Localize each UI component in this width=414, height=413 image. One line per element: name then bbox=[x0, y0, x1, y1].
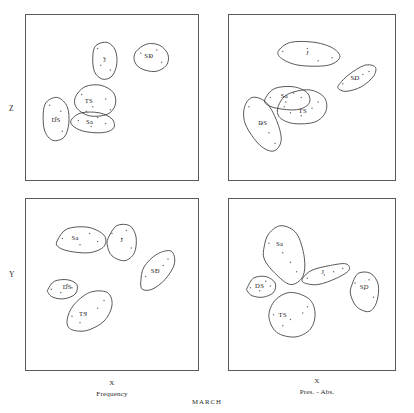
data-point bbox=[290, 112, 292, 114]
cluster-layer-panel-y-frequency: SaJSDDSTS bbox=[26, 199, 198, 370]
data-point bbox=[333, 271, 335, 273]
cluster-ts[interactable]: TS bbox=[269, 292, 315, 337]
data-point bbox=[105, 98, 107, 100]
cluster-sa[interactable]: Sa bbox=[263, 226, 305, 285]
data-point bbox=[49, 104, 51, 106]
data-point bbox=[300, 115, 302, 117]
cluster-ts[interactable]: TS bbox=[67, 291, 112, 331]
cluster-j[interactable]: J bbox=[302, 264, 350, 285]
data-point bbox=[60, 292, 62, 294]
cluster-ds[interactable]: DS bbox=[247, 276, 276, 297]
axis-label-row-y: Y bbox=[9, 270, 15, 279]
data-point bbox=[317, 60, 319, 62]
cluster-sd[interactable]: SD bbox=[350, 272, 378, 312]
data-point bbox=[248, 106, 250, 108]
data-point bbox=[126, 230, 128, 232]
cluster-label-sa: Sa bbox=[86, 118, 93, 125]
cluster-ts[interactable]: TS bbox=[74, 85, 115, 117]
cluster-hull-sa bbox=[56, 227, 106, 253]
data-point bbox=[250, 287, 252, 289]
data-point bbox=[50, 289, 52, 291]
data-point bbox=[110, 69, 112, 71]
data-point bbox=[300, 97, 302, 99]
cluster-ds[interactable]: DS bbox=[244, 97, 282, 151]
cluster-layer-panel-y-presabs: SaJDSSDTS bbox=[229, 199, 395, 370]
data-point bbox=[78, 120, 80, 122]
cluster-ds[interactable]: DS bbox=[47, 280, 77, 299]
data-point bbox=[140, 52, 142, 54]
data-point bbox=[62, 238, 64, 240]
cluster-label-ts: TS bbox=[299, 107, 307, 114]
panel-y-frequency[interactable]: SaJSDDSTS bbox=[25, 198, 199, 371]
axis-label-row-z: Z bbox=[9, 104, 14, 113]
data-point bbox=[307, 277, 309, 279]
cluster-label-sa: Sa bbox=[72, 234, 79, 241]
data-point bbox=[110, 109, 112, 111]
data-point bbox=[270, 97, 272, 99]
data-point bbox=[97, 117, 99, 119]
data-point bbox=[156, 49, 158, 51]
data-point bbox=[167, 258, 169, 260]
cluster-hull-ts bbox=[74, 85, 115, 117]
data-point bbox=[100, 65, 102, 67]
cluster-sd[interactable]: SD bbox=[134, 43, 169, 71]
data-point bbox=[97, 48, 99, 50]
cluster-ds[interactable]: DS bbox=[43, 97, 69, 140]
cluster-j[interactable]: J bbox=[107, 224, 136, 260]
data-point bbox=[282, 325, 284, 327]
data-point bbox=[317, 101, 319, 103]
data-point bbox=[290, 261, 292, 263]
data-point bbox=[268, 132, 270, 134]
cluster-sd[interactable]: SD bbox=[141, 251, 175, 291]
data-point bbox=[145, 276, 147, 278]
data-point bbox=[362, 74, 364, 76]
cluster-label-sd: SD bbox=[151, 267, 160, 274]
data-point bbox=[274, 143, 276, 145]
data-point bbox=[307, 306, 309, 308]
cluster-hull-j bbox=[302, 264, 350, 285]
cluster-sd[interactable]: SD bbox=[338, 65, 376, 92]
panel-y-presabs[interactable]: SaJDSSDTS bbox=[228, 198, 396, 371]
cluster-hull-sd bbox=[350, 272, 378, 312]
data-point bbox=[111, 233, 113, 235]
cluster-label-ts: TS bbox=[79, 310, 87, 317]
data-point bbox=[270, 285, 272, 287]
cluster-label-j: J bbox=[103, 56, 106, 63]
cluster-label-sa: Sa bbox=[276, 240, 283, 247]
data-point bbox=[282, 252, 284, 254]
cluster-layer-panel-z-frequency: JSDTSSaDS bbox=[26, 15, 198, 180]
cluster-label-ds: DS bbox=[258, 119, 267, 126]
data-point bbox=[92, 106, 94, 108]
data-point bbox=[97, 241, 99, 243]
data-point bbox=[162, 265, 164, 267]
data-point bbox=[105, 123, 107, 125]
cluster-j[interactable]: J bbox=[93, 42, 117, 79]
cluster-label-sd: SD bbox=[360, 283, 369, 290]
data-point bbox=[259, 290, 261, 292]
cluster-label-ts: TS bbox=[279, 311, 287, 318]
data-point bbox=[331, 57, 333, 59]
cluster-label-ds: DS bbox=[51, 116, 60, 123]
data-point bbox=[368, 279, 370, 281]
data-point bbox=[373, 296, 375, 298]
cluster-sa[interactable]: Sa bbox=[71, 112, 115, 133]
cluster-label-sd: SD bbox=[351, 74, 360, 81]
data-point bbox=[268, 242, 270, 244]
data-point bbox=[342, 268, 344, 270]
cluster-j[interactable]: J bbox=[278, 41, 340, 66]
data-point bbox=[284, 106, 286, 108]
figure-title: MARCH bbox=[0, 398, 414, 405]
data-point bbox=[368, 71, 370, 73]
data-point bbox=[71, 316, 73, 318]
data-point bbox=[311, 107, 313, 109]
data-point bbox=[90, 126, 92, 128]
data-point bbox=[265, 281, 267, 283]
cluster-hull-ts bbox=[67, 291, 112, 331]
panel-z-presabs[interactable]: JSDSaTSDS bbox=[228, 14, 396, 181]
cluster-hull-ts bbox=[269, 292, 315, 337]
panel-z-frequency[interactable]: JSDTSSaDS bbox=[25, 14, 199, 181]
cluster-sa[interactable]: Sa bbox=[56, 227, 106, 253]
data-point bbox=[60, 111, 62, 113]
cluster-layer-panel-z-presabs: JSDSaTSDS bbox=[229, 15, 395, 180]
cluster-label-ds: DS bbox=[255, 282, 264, 289]
